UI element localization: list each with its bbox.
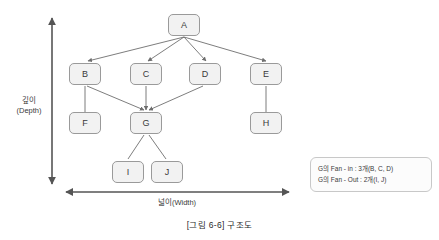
edge-group [85,37,266,159]
node-d[interactable]: D [189,63,221,85]
depth-axis-label-korean: 깊이 [6,96,52,106]
width-axis-label: 넓이(Width) [120,198,234,208]
node-g[interactable]: G [130,112,162,134]
node-c[interactable]: C [130,63,162,85]
edge-d-g [149,86,203,110]
node-j[interactable]: J [151,161,183,183]
structure-diagram-figure: A B C D E F G H I J 깊이 (Depth) 넓이(Width)… [0,0,439,240]
depth-axis-label: 깊이 (Depth) [6,96,52,116]
edge-g-i [128,135,144,159]
edge-b-g [87,86,144,110]
depth-axis-label-english: (Depth) [6,106,52,116]
edge-a-e [184,37,266,61]
node-b[interactable]: B [69,63,101,85]
node-e[interactable]: E [250,63,282,85]
node-f[interactable]: F [69,112,101,134]
node-h[interactable]: H [250,112,282,134]
figure-caption: [그림 6-6] 구조도 [0,219,439,231]
edge-a-c [148,37,184,61]
legend-fan-out-line: G의 Fan - Out : 2개(I, J) [318,174,425,185]
legend-fan-in-line: G의 Fan - in : 3개(B, C, D) [318,163,425,174]
fan-in-out-legend: G의 Fan - in : 3개(B, C, D) G의 Fan - Out :… [310,157,432,192]
edge-g-j [149,135,166,159]
edge-a-b [88,37,184,61]
node-i[interactable]: I [112,161,144,183]
node-a[interactable]: A [168,14,200,36]
